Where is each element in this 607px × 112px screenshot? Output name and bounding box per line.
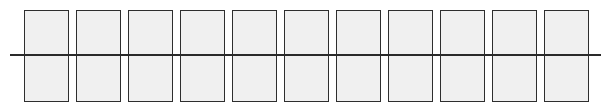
- rectangle-cell-6: [284, 10, 329, 102]
- rectangle-cell-9: [440, 10, 485, 102]
- rectangle-cell-10: [492, 10, 537, 102]
- rectangle-cell-11: [544, 10, 589, 102]
- rectangle-row-diagram: [0, 0, 607, 112]
- horizontal-line: [10, 54, 601, 56]
- rectangle-cell-7: [336, 10, 381, 102]
- rectangle-cell-5: [232, 10, 277, 102]
- rectangle-cell-1: [24, 10, 69, 102]
- rectangle-cell-2: [76, 10, 121, 102]
- rectangle-cell-3: [128, 10, 173, 102]
- rectangle-cell-4: [180, 10, 225, 102]
- rectangle-cell-8: [388, 10, 433, 102]
